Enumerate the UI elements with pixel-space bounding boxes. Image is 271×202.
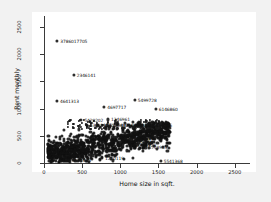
data-point-label: 4641313 [60, 98, 79, 103]
data-point-label: 6146860 [159, 106, 178, 111]
y-tick-mark [40, 109, 44, 110]
x-tick-mark [44, 164, 45, 168]
y-axis-line [44, 16, 45, 163]
x-tick-mark [235, 164, 236, 168]
data-point-label: 3912290 [128, 140, 147, 145]
x-tick-mark [120, 164, 121, 168]
y-tick-mark [40, 54, 44, 55]
data-point-label: 3786017705 [60, 38, 87, 43]
x-axis-title: Home size in sqft. [119, 180, 174, 187]
x-axis-line [44, 163, 250, 164]
x-tick-mark [158, 164, 159, 168]
x-tick-mark [82, 164, 83, 168]
y-tick-mark [40, 136, 44, 137]
x-tick-label: 500 [77, 169, 87, 175]
x-tick-label: 1000 [114, 169, 127, 175]
data-point-label: 1220119 [105, 155, 124, 160]
scatter-plot-figure: 05001000150020002500 0500100015002000250… [0, 0, 271, 202]
data-point-label: 2883037 [139, 123, 158, 128]
x-tick-label: 1500 [152, 169, 165, 175]
x-tick-label: 0 [42, 169, 45, 175]
y-tick-label: 2500 [16, 8, 22, 46]
data-point-label: 5748903 [148, 145, 167, 150]
y-tick-mark [40, 81, 44, 82]
x-tick-label: 2000 [190, 169, 203, 175]
data-point-label: 5541368 [164, 158, 183, 163]
y-tick-mark [40, 27, 44, 28]
x-tick-label: 2500 [228, 169, 241, 175]
data-point-label: 5499728 [138, 98, 157, 103]
data-point-label: 4697717 [107, 105, 126, 110]
data-point-label: 2346141 [77, 73, 96, 78]
data-point-label: 1346961 [111, 117, 130, 122]
y-axis-title: Rent monthly [13, 68, 20, 110]
data-point-label: 3351808 [72, 157, 91, 162]
x-tick-mark [197, 164, 198, 168]
